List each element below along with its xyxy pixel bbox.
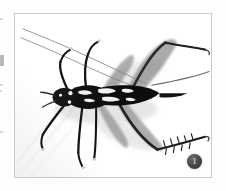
scanned-page: 1 xyxy=(0,0,226,191)
figure-frame: 1 xyxy=(14,13,212,178)
margin-text-fragment xyxy=(0,18,3,20)
margin-text-fragment xyxy=(0,84,3,86)
figure-number-badge: 1 xyxy=(187,154,202,169)
margin-text-fragment xyxy=(0,90,2,92)
margin-text-fragment xyxy=(0,55,4,66)
head xyxy=(53,88,77,107)
specimen-photograph xyxy=(15,14,211,177)
margin-text-fragment xyxy=(0,131,3,133)
